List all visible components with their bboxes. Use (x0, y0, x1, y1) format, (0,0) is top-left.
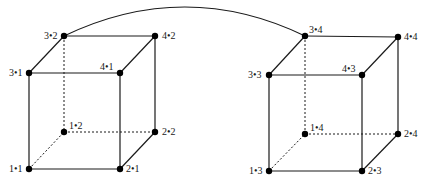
node-dot (61, 33, 67, 39)
node-label: 2•4 (404, 128, 418, 139)
node-label: 1•2 (69, 120, 83, 131)
node-label: 1•3 (249, 165, 263, 176)
node-label: 2•1 (126, 163, 140, 174)
node-label: 3•4 (309, 24, 323, 35)
node-label: 3•2 (44, 30, 58, 41)
node-dot (26, 166, 32, 172)
node-dot (359, 72, 365, 78)
cube-link-diagram: 3•24•23•14•11•22•21•12•13•44•43•34•31•42… (0, 0, 432, 182)
node-label: 1•1 (9, 163, 23, 174)
node-label: 1•4 (310, 122, 324, 133)
node-dot (395, 34, 401, 40)
node-dot (266, 168, 272, 174)
node-dot (302, 131, 308, 137)
node-dot (152, 33, 158, 39)
node-label: 2•3 (368, 165, 382, 176)
node-label: 4•1 (100, 61, 114, 72)
node-label: 3•3 (248, 69, 262, 80)
node-dot (61, 129, 67, 135)
node-dot (117, 70, 123, 76)
node-dot (302, 33, 308, 39)
node-dot (117, 166, 123, 172)
node-dot (26, 70, 32, 76)
node-dot (266, 72, 272, 78)
nodes-layer: 3•24•23•14•11•22•21•12•13•44•43•34•31•42… (9, 24, 418, 176)
right-cube (269, 36, 398, 171)
link-arc (64, 7, 305, 36)
node-label: 3•1 (9, 67, 23, 78)
node-label: 4•2 (162, 30, 176, 41)
node-label: 4•4 (404, 31, 418, 42)
node-dot (359, 168, 365, 174)
node-dot (152, 129, 158, 135)
node-dot (395, 131, 401, 137)
node-label: 2•2 (162, 126, 176, 137)
left-cube (29, 36, 155, 169)
node-label: 4•3 (342, 63, 356, 74)
